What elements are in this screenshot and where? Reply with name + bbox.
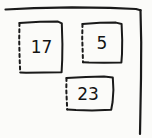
box-23-value: 23 (77, 84, 99, 104)
box-5-dashed-left-edge (82, 24, 83, 62)
hand-drawn-diagram: 17 5 23 (0, 0, 152, 138)
sketch-canvas: 17 5 23 (0, 0, 152, 138)
box-17[interactable]: 17 (19, 22, 62, 73)
box-17-value: 17 (31, 37, 53, 57)
box-23[interactable]: 23 (66, 77, 113, 111)
box-5[interactable]: 5 (82, 23, 122, 63)
box-17-dashed-left-edge (19, 23, 20, 72)
frame-right-line (140, 10, 141, 134)
box-5-value: 5 (97, 33, 108, 53)
frame-top-line (6, 7, 141, 10)
box-23-dashed-left-edge (66, 78, 67, 109)
